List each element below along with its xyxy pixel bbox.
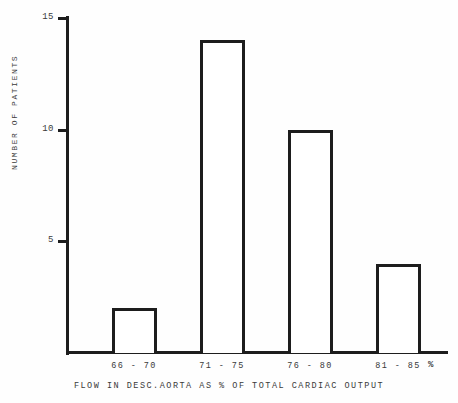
x-category-label-3: 81 - 85 [358, 361, 438, 371]
y-axis-title: NUMBER OF PATIENTS [10, 152, 20, 170]
bar-66-70 [112, 308, 157, 353]
x-category-label-2: 76 - 80 [270, 361, 350, 371]
bar-76-80 [288, 130, 333, 353]
bar-81-85 [376, 264, 421, 353]
percent-unit-marker: % [428, 360, 433, 370]
bars-container [68, 18, 450, 353]
x-axis-title: FLOW IN DESC.AORTA AS % OF TOTAL CARDIAC… [0, 381, 458, 392]
x-category-label-1: 71 - 75 [182, 361, 262, 371]
y-tick-label-10: 10 [32, 125, 54, 134]
histogram-figure: 51015 66 - 7071 - 7576 - 8081 - 85 % FLO… [0, 0, 458, 403]
y-tick-label-5: 5 [32, 236, 54, 245]
x-category-label-0: 66 - 70 [94, 361, 174, 371]
y-tick-label-15: 15 [32, 13, 54, 22]
bar-71-75 [200, 40, 245, 353]
